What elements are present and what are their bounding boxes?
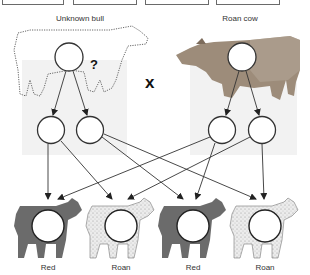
cross-symbol: x — [145, 73, 155, 92]
offspring-label-2: Roan — [101, 263, 141, 272]
bull-gamete-circle-1 — [38, 117, 65, 144]
cow-gamete-circle-2 — [249, 117, 276, 144]
bull-genotype-circle — [55, 43, 83, 71]
cow-gamete-circle-1 — [209, 117, 236, 144]
offspring-label-1: Red — [28, 263, 68, 272]
offspring-circle-3 — [177, 210, 209, 242]
cow-genotype-circle — [228, 43, 256, 71]
bull-gamete-circle-2 — [77, 117, 104, 144]
cross-diagram: ? x — [0, 0, 310, 275]
offspring-label-3: Red — [173, 263, 213, 272]
offspring-circle-4 — [249, 210, 281, 242]
offspring-circle-1 — [32, 210, 64, 242]
offspring-label-4: Roan — [245, 263, 285, 272]
unknown-marker-icon: ? — [90, 57, 98, 72]
offspring-circle-2 — [105, 210, 137, 242]
